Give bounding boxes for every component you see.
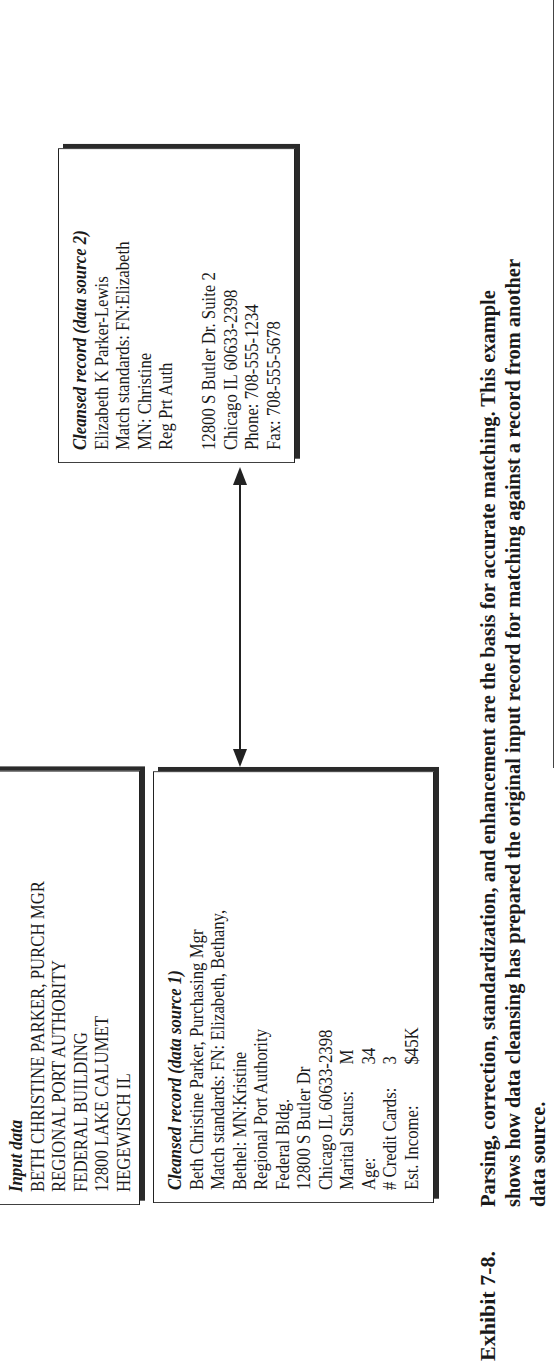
- attribute-row: Age: 34: [358, 784, 380, 1190]
- cleansed-record-1-box: Cleansed record (data source 1) Beth Chr…: [153, 771, 434, 1203]
- cleansed-record-1-heading: Cleansed record (data source 1): [164, 784, 186, 1190]
- attribute-key: Est. Income:: [401, 1065, 423, 1191]
- cleansed-record-2-box: Cleansed record (data source 2) Elizabet…: [58, 148, 295, 463]
- input-data-box: Input data BETH CHRISTINE PARKER, PURCH …: [0, 771, 140, 1205]
- exhibit-caption: Parsing, correction, standardization, an…: [475, 84, 550, 1207]
- record-line: Match standards: FN:Elizabeth: [112, 161, 134, 450]
- attribute-row: Marital Status: M: [336, 784, 358, 1190]
- exhibit-page: Input data BETH CHRISTINE PARKER, PURCH …: [0, 0, 557, 1361]
- record-line: Chicago IL 60633-2398: [220, 161, 242, 450]
- input-line: BETH CHRISTINE PARKER, PURCH MGR: [27, 784, 49, 1193]
- attribute-key: # Credit Cards:: [379, 1065, 401, 1191]
- arrowhead-left-icon: [233, 749, 247, 767]
- attribute-value: 34: [358, 1048, 380, 1065]
- input-line: REGIONAL PORT AUTHORITY: [48, 784, 70, 1193]
- connector-arrow-line: [239, 483, 241, 751]
- record-line: MN: Christine: [134, 161, 156, 450]
- record-line: Match standards: FN: Elizabeth, Bethany,: [207, 784, 229, 1190]
- attribute-value: 3: [379, 1056, 401, 1064]
- attribute-value: $45K: [401, 1027, 423, 1064]
- attribute-row: # Credit Cards: 3: [379, 784, 401, 1190]
- attribute-row: Est. Income: $45K: [401, 784, 423, 1190]
- arrowhead-right-icon: [233, 467, 247, 485]
- cleansed-record-2-heading: Cleansed record (data source 2): [69, 161, 91, 450]
- caption-line: data source.: [525, 84, 550, 1207]
- input-data-heading: Input data: [5, 784, 27, 1193]
- spacer: [177, 161, 199, 450]
- input-line: 12800 LAKE CALUMET: [91, 784, 113, 1193]
- record-line: Chicago IL 60633-2398: [315, 784, 337, 1190]
- caption-line: shows how data cleansing has prepared th…: [500, 84, 525, 1207]
- record-line: Elizabeth K Parker-Lewis: [91, 161, 113, 450]
- record-line: Phone: 708-555-1234: [241, 161, 263, 450]
- record-line: 12800 S Butler Dr. Suite 2: [198, 161, 220, 450]
- record-line: 12800 S Butler Dr: [293, 784, 315, 1190]
- caption-rule-divider: [553, 0, 554, 768]
- record-line: Fax: 708-555-5678: [263, 161, 285, 450]
- input-line: FEDERAL BUILDING: [70, 784, 92, 1193]
- caption-line: Parsing, correction, standardization, an…: [475, 84, 500, 1207]
- attribute-key: Age:: [358, 1065, 380, 1191]
- record-line: Beth Christine Parker, Purchasing Mgr: [186, 784, 208, 1190]
- record-line: Federal Bldg.: [272, 784, 294, 1190]
- input-line: HEGEWISCH IL: [113, 784, 135, 1193]
- record-line: Regional Port Authority: [250, 784, 272, 1190]
- attribute-key: Marital Status:: [336, 1065, 358, 1191]
- attribute-value: M: [336, 1050, 358, 1065]
- record-line: Bethel: MN:Kristine: [229, 784, 251, 1190]
- exhibit-label: Exhibit 7-8.: [475, 1251, 500, 1361]
- record-line: Reg Prt Auth: [155, 161, 177, 450]
